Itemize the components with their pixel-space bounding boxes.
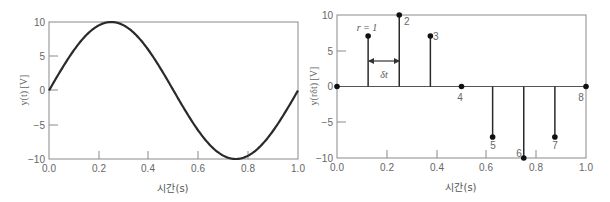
right-y-axis-title: y(rδt) [V] xyxy=(308,67,320,106)
sample-marker xyxy=(490,134,496,140)
left-x-axis-title: 시간(s) xyxy=(157,183,188,194)
sample-label-4: 4 xyxy=(457,92,463,103)
right-xtick-0.2: 0.2 xyxy=(380,162,394,173)
right-x-axis-title: 시간(s) xyxy=(445,182,476,193)
left-ytick-5: 5 xyxy=(39,51,45,62)
left-chart: 10 5 0 −5 −10 0.0 0.2 0.4 0.6 0.8 1.0 시간… xyxy=(18,17,305,194)
sine-curve xyxy=(49,22,298,159)
right-xtick-0.4: 0.4 xyxy=(430,162,444,173)
left-xtick-0.4: 0.4 xyxy=(141,163,155,174)
left-xtick-0.6: 0.6 xyxy=(191,163,205,174)
delta-t-label: δt xyxy=(380,69,388,80)
sample-label-5: 5 xyxy=(490,140,496,151)
left-ytick-neg5: −5 xyxy=(34,120,46,131)
left-xtick-1.0: 1.0 xyxy=(291,163,305,174)
sample-marker xyxy=(365,33,371,39)
right-ytick-10: 10 xyxy=(322,10,334,21)
sample-marker xyxy=(552,134,558,140)
sample-marker xyxy=(459,84,465,90)
right-xtick-1.0: 1.0 xyxy=(579,162,593,173)
sample-label-8: 8 xyxy=(578,92,584,103)
left-ytick-10: 10 xyxy=(34,17,46,28)
sample-label-3: 3 xyxy=(433,31,439,42)
delta-t-annotation: δt xyxy=(368,58,400,80)
right-ytick-5: 5 xyxy=(327,46,333,57)
right-chart: 10 5 0 −5 −10 0.0 0.2 0.4 0.6 0.8 1.0 시간… xyxy=(308,10,593,193)
sample-marker xyxy=(521,155,527,161)
sample-label-6: 6 xyxy=(516,148,522,159)
sample-marker xyxy=(334,84,340,90)
sample-label-7: 7 xyxy=(552,140,558,151)
sample-marker xyxy=(583,84,589,90)
left-xtick-0.0: 0.0 xyxy=(42,163,56,174)
sample-marker xyxy=(396,12,402,18)
sample-label-1: r = 1 xyxy=(357,22,378,33)
left-y-axis-title: y(t) [V] xyxy=(18,75,30,106)
left-ytick-0: 0 xyxy=(39,85,45,96)
right-xtick-0.0: 0.0 xyxy=(330,162,344,173)
left-xtick-0.8: 0.8 xyxy=(241,163,255,174)
right-xtick-0.8: 0.8 xyxy=(529,162,543,173)
sample-label-2: 2 xyxy=(404,16,410,27)
figure: 10 5 0 −5 −10 0.0 0.2 0.4 0.6 0.8 1.0 시간… xyxy=(0,0,610,202)
right-x-ticks xyxy=(387,150,536,158)
left-y-ticks xyxy=(49,56,58,125)
right-ytick-0: 0 xyxy=(327,81,333,92)
right-xtick-0.6: 0.6 xyxy=(479,162,493,173)
right-ytick-neg5: −5 xyxy=(322,117,334,128)
left-xtick-0.2: 0.2 xyxy=(92,163,106,174)
